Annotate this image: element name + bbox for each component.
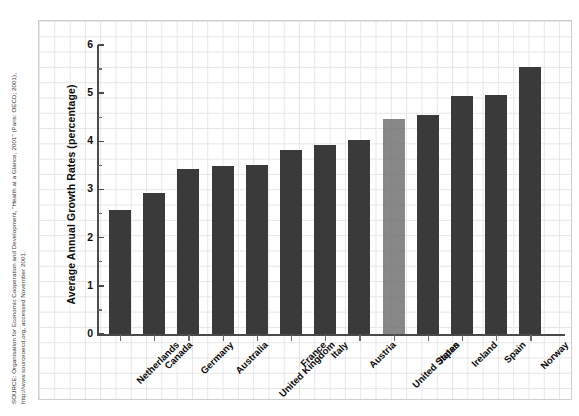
bar-germany[interactable] — [177, 169, 199, 334]
x-axis-label-spain: Spain — [502, 339, 528, 365]
y-minor-tick — [98, 68, 102, 69]
plot-area: Average Annual Growth Rates (percentage)… — [39, 21, 573, 401]
y-minor-tick — [98, 261, 102, 262]
y-tick-4 — [98, 141, 104, 142]
y-tick-2 — [98, 237, 104, 238]
y-minor-tick — [98, 165, 102, 166]
bar-united-states[interactable] — [383, 119, 405, 334]
y-tick-label-6: 6 — [63, 38, 93, 50]
y-minor-tick — [98, 213, 102, 214]
y-tick-3 — [98, 189, 104, 190]
bar-italy[interactable] — [314, 145, 336, 334]
x-tick-canada — [154, 335, 155, 341]
x-tick-netherlands — [120, 335, 121, 341]
bar-japan[interactable] — [417, 115, 439, 334]
y-tick-label-3: 3 — [63, 182, 93, 194]
y-tick-label-5: 5 — [63, 86, 93, 98]
bar-france[interactable] — [280, 150, 302, 334]
bar-ireland[interactable] — [451, 96, 473, 334]
x-tick-united-kingdom — [257, 335, 258, 341]
y-tick-label-1: 1 — [63, 279, 93, 291]
x-tick-norway — [530, 335, 531, 341]
y-tick-0 — [98, 333, 104, 334]
x-axis-label-australia: Australia — [233, 339, 270, 376]
x-tick-ireland — [462, 335, 463, 341]
x-tick-australia — [223, 335, 224, 341]
y-minor-tick — [98, 309, 102, 310]
bar-austria[interactable] — [348, 140, 370, 334]
y-tick-label-2: 2 — [63, 231, 93, 243]
bar-australia[interactable] — [212, 166, 234, 334]
chart-frame: Average Annual Growth Rates (percentage)… — [38, 20, 572, 400]
y-tick-label-0: 0 — [63, 327, 93, 339]
y-tick-1 — [98, 285, 104, 286]
x-axis-line — [97, 334, 565, 336]
bar-canada[interactable] — [143, 193, 165, 334]
x-tick-spain — [496, 335, 497, 341]
x-axis-label-germany: Germany — [199, 339, 236, 376]
source-note: SOURCE: Organisation for Economic Cooper… — [0, 0, 38, 416]
y-tick-5 — [98, 92, 104, 93]
y-minor-tick — [98, 117, 102, 118]
x-axis-label-ireland: Ireland — [469, 339, 499, 369]
x-tick-japan — [428, 335, 429, 341]
y-tick-label-4: 4 — [63, 134, 93, 146]
x-tick-united-states — [394, 335, 395, 341]
x-axis-label-austria: Austria — [367, 339, 398, 370]
y-tick-6 — [98, 44, 104, 45]
x-axis-label-united-kingdom: United Kingdom — [276, 339, 336, 399]
x-axis-label-norway: Norway — [539, 339, 571, 371]
x-tick-austria — [359, 335, 360, 341]
bar-spain[interactable] — [485, 95, 507, 334]
x-tick-france — [291, 335, 292, 341]
bar-netherlands[interactable] — [109, 210, 131, 334]
bar-norway[interactable] — [519, 67, 541, 334]
bar-united-kingdom[interactable] — [246, 165, 268, 334]
